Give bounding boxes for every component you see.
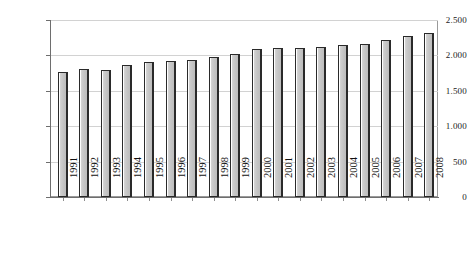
bar [403, 36, 413, 197]
x-tick-label: 1992 [89, 157, 100, 203]
bar [273, 48, 283, 197]
x-tick-label: 2008 [434, 157, 445, 203]
y-tick-mark [46, 126, 50, 127]
x-tick-mark [321, 198, 322, 201]
x-tick-label: 1999 [240, 157, 251, 203]
x-tick-mark [429, 198, 430, 201]
x-tick-mark [386, 198, 387, 201]
x-tick-label: 1997 [197, 157, 208, 203]
x-tick-mark [84, 198, 85, 201]
bar [144, 62, 154, 197]
bar [209, 57, 219, 197]
bar [187, 60, 197, 197]
y-tick-mark [46, 91, 50, 92]
x-tick-label: 1994 [132, 157, 143, 203]
bar [424, 33, 434, 197]
bar [316, 47, 326, 197]
x-tick-label: 2002 [305, 157, 316, 203]
y-tick-mark [46, 162, 50, 163]
x-tick-mark [365, 198, 366, 201]
x-tick-mark [300, 198, 301, 201]
gridline [51, 55, 438, 56]
x-tick-label: 1991 [68, 157, 79, 203]
x-tick-mark [127, 198, 128, 201]
x-tick-label: 2003 [326, 157, 337, 203]
x-tick-mark [278, 198, 279, 201]
x-tick-label: 2007 [413, 157, 424, 203]
x-tick-mark [235, 198, 236, 201]
x-tick-mark [106, 198, 107, 201]
x-tick-mark [257, 198, 258, 201]
bar [360, 44, 370, 197]
x-tick-mark [214, 198, 215, 201]
x-tick-label: 2006 [391, 157, 402, 203]
bar [79, 69, 89, 197]
bar [338, 45, 348, 197]
y-axis [50, 20, 51, 198]
x-tick-mark [408, 198, 409, 201]
x-tick-mark [149, 198, 150, 201]
y-tick-mark [46, 55, 50, 56]
x-tick-label: 2001 [283, 157, 294, 203]
bar [381, 40, 391, 197]
bar [230, 54, 240, 197]
x-tick-label: 2005 [370, 157, 381, 203]
x-tick-mark [192, 198, 193, 201]
x-tick-mark [171, 198, 172, 201]
x-tick-label: 1998 [219, 157, 230, 203]
x-tick-label: 1996 [176, 157, 187, 203]
x-tick-label: 1995 [154, 157, 165, 203]
x-tick-label: 1993 [111, 157, 122, 203]
bar [295, 48, 305, 197]
x-tick-label: 2000 [262, 157, 273, 203]
bar [122, 65, 132, 197]
gridline [51, 20, 438, 21]
bar-chart: 05001.0001.5002.0002.500 199119921993199… [0, 0, 467, 256]
bar [101, 70, 111, 197]
y-tick-mark [46, 197, 50, 198]
x-tick-mark [343, 198, 344, 201]
y-tick-mark [46, 20, 50, 21]
x-tick-label: 2004 [348, 157, 359, 203]
bar [166, 61, 176, 197]
x-tick-mark [63, 198, 64, 201]
bar [252, 49, 262, 197]
y-tick-label: 2.500 [423, 16, 467, 25]
bar [58, 72, 68, 197]
